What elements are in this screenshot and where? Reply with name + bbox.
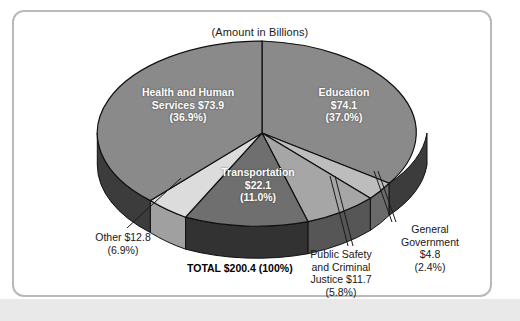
slice-label-transportation: Transportation $22.1 (11.0%) <box>200 166 316 204</box>
slice-label-transportation-value: $22.1 <box>200 179 316 192</box>
figure-canvas: (Amount in Billions) <box>0 0 520 321</box>
callout-general-government: General Government $4.8 (2.4%) <box>386 223 474 273</box>
callout-general-government-line1: General <box>386 223 474 236</box>
slice-label-transportation-percent: (11.0%) <box>200 191 316 204</box>
chart-total-label: TOTAL $200.4 (100%) <box>187 262 293 274</box>
callout-general-government-line3: $4.8 <box>386 248 474 261</box>
slice-label-education: Education $74.1 (37.0%) <box>296 86 392 124</box>
callout-general-government-line2: Government <box>386 236 474 249</box>
callout-public-safety-line4: (5.8%) <box>300 286 382 299</box>
callout-public-safety-line1: Public Safety <box>300 248 382 261</box>
slice-label-hhs-name: Health and Human <box>118 86 258 99</box>
callout-other-line1: Other $12.8 <box>64 231 182 244</box>
slice-label-health-human-services: Health and Human Services $73.9 (36.9%) <box>118 86 258 124</box>
callout-public-safety-line3: Justice $11.7 <box>300 273 382 286</box>
callout-public-safety: Public Safety and Criminal Justice $11.7… <box>300 248 382 298</box>
slice-label-education-name: Education <box>296 86 392 99</box>
callout-other-line2: (6.9%) <box>64 244 182 257</box>
slice-label-education-value: $74.1 <box>296 99 392 112</box>
callout-general-government-line4: (2.4%) <box>386 261 474 274</box>
slice-label-transportation-name: Transportation <box>200 166 316 179</box>
slice-label-education-percent: (37.0%) <box>296 111 392 124</box>
slice-label-hhs-percent: (36.9%) <box>118 111 258 124</box>
slice-label-hhs-value: Services $73.9 <box>118 99 258 112</box>
callout-public-safety-line2: and Criminal <box>300 261 382 274</box>
callout-other: Other $12.8 (6.9%) <box>64 231 182 256</box>
